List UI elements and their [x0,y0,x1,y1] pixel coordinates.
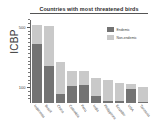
bar-segment-non-endemic [56,62,66,94]
chart-figure: ICBP Countries with most threatened bird… [0,0,159,135]
bar-segment-non-endemic [79,71,89,85]
x-axis-label-china: China [56,104,65,114]
bar-segment-non-endemic [138,87,148,102]
y-axis-tick-minor [28,91,31,92]
bar-segment-endemic [115,101,125,103]
y-axis-tick-major: 500 [27,27,31,28]
y-axis-tick-minor [28,42,31,43]
legend-label: Non-endemic [117,36,137,40]
y-axis-tick-minor [28,31,31,32]
bar-segment-endemic [67,86,77,103]
bar-segment-endemic [91,96,101,103]
y-axis-tick-minor [28,61,31,62]
y-axis-tick-minor [28,72,31,73]
bar-segment-endemic [32,44,42,103]
y-axis-tick-minor [28,49,31,50]
y-axis-tick-minor [28,83,31,84]
bar-ecuador[interactable] [115,83,125,103]
legend-label: Endemic [117,28,130,32]
y-axis-tick-label: 100 [19,85,26,90]
bar-segment-non-endemic [44,26,54,66]
chart-title: Countries with most threatened birds [30,6,148,14]
bar-peru[interactable] [79,71,89,103]
y-axis-tick-minor [28,34,31,35]
bar-usa[interactable] [126,84,136,103]
bar-segment-non-endemic [67,71,77,86]
bar-segment-non-endemic [91,78,101,96]
chart-legend: EndemicNon-endemic [107,27,157,43]
bar-indonesia[interactable] [32,25,42,103]
legend-item[interactable]: Non-endemic [107,35,157,40]
y-axis-tick-minor [28,80,31,81]
y-axis-tick-major: 100 [27,87,31,88]
y-axis-tick-minor [28,98,31,99]
bar-philippines[interactable] [103,80,113,103]
bar-colombia[interactable] [67,71,77,103]
legend-swatch-icon [107,27,114,32]
bar-tanzania[interactable] [138,87,148,103]
y-axis-tick-minor [28,95,31,96]
y-axis-tick-minor [28,57,31,58]
bar-segment-endemic [79,85,89,103]
x-axis-label-india: India [91,104,99,113]
x-axis-label-usa: USA [127,104,135,112]
y-axis-tick-minor [28,38,31,39]
bar-segment-non-endemic [103,80,113,101]
x-axis-label-tanzania: Tanzania [139,104,151,118]
x-axis-label-brazil: Brazil [44,104,53,114]
y-axis-tick-minor [28,23,31,24]
x-axis-label-peru: Peru [80,104,88,112]
bar-segment-endemic [138,102,148,103]
y-axis-tick-minor [28,68,31,69]
x-axis-labels: IndonesiaBrazilChinaColombiaPeruIndiaPhi… [32,104,150,135]
y-axis-tick-label: 500 [19,24,26,29]
y-axis-tick-minor [28,46,31,47]
x-axis-label-colombia: Colombia [68,104,81,118]
bar-india[interactable] [91,78,101,103]
bar-segment-endemic [126,89,136,103]
y-axis-tick-minor [28,76,31,77]
x-axis-label-ecuador: Ecuador [115,104,126,117]
bar-segment-non-endemic [32,25,42,45]
bar-segment-non-endemic [115,83,125,101]
y-axis-line [30,20,31,103]
y-axis-tick-minor [28,53,31,54]
legend-swatch-icon [107,35,114,40]
legend-item[interactable]: Endemic [107,27,157,32]
bar-segment-endemic [56,94,66,103]
bar-segment-endemic [44,66,54,103]
bar-segment-endemic [103,101,113,103]
y-axis-tick-minor [28,64,31,65]
bar-brazil[interactable] [44,26,54,103]
y-axis-tick-minor [28,19,31,20]
bar-china[interactable] [56,62,66,103]
